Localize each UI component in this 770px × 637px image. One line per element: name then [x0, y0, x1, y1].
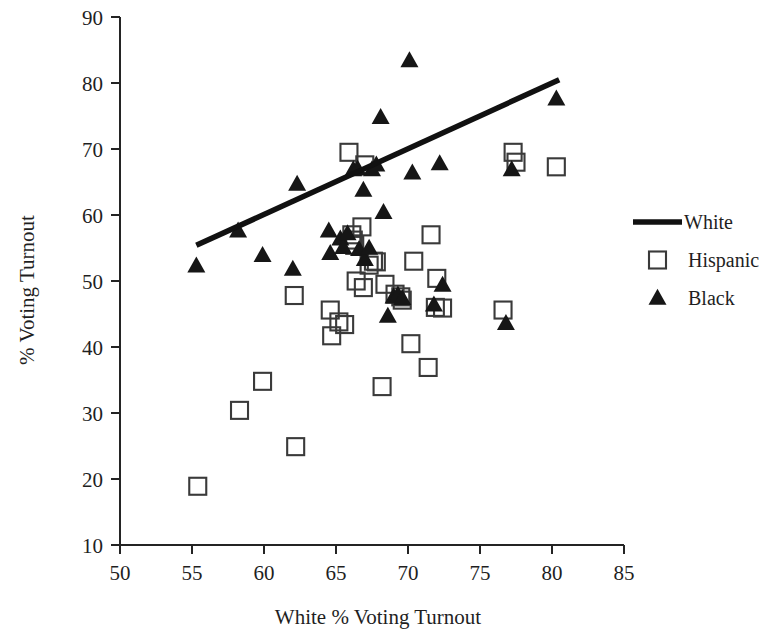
data-point-black — [400, 51, 418, 67]
y-tick-label: 30 — [82, 402, 103, 426]
data-point-black — [403, 163, 421, 179]
data-point-hispanic — [355, 279, 372, 296]
x-tick-label: 60 — [254, 561, 275, 585]
data-point-hispanic — [348, 273, 365, 290]
data-point-hispanic — [423, 226, 440, 243]
scatter-plot-figure: 1020304050607080905055606570758085 White… — [0, 0, 770, 637]
trend-line-white — [196, 80, 559, 246]
data-point-black — [503, 160, 521, 176]
chart-canvas: 1020304050607080905055606570758085 White… — [0, 0, 770, 637]
data-series — [187, 51, 565, 494]
legend-marker-hispanic — [649, 252, 666, 269]
data-point-black — [372, 108, 390, 124]
data-point-black — [354, 181, 372, 197]
x-tick-label: 65 — [326, 561, 347, 585]
data-point-hispanic — [376, 276, 393, 293]
x-tick-label: 50 — [110, 561, 131, 585]
x-tick-label: 80 — [542, 561, 563, 585]
data-point-hispanic — [231, 402, 248, 419]
data-point-black — [187, 257, 205, 273]
data-point-black — [434, 276, 452, 292]
data-point-hispanic — [402, 335, 419, 352]
y-tick-label: 70 — [82, 138, 103, 162]
data-point-hispanic — [254, 373, 271, 390]
x-tick-label: 75 — [470, 561, 491, 585]
trend-line-segment — [196, 80, 559, 246]
data-point-hispanic — [286, 287, 303, 304]
data-point-hispanic — [495, 302, 512, 319]
data-point-black — [547, 90, 565, 106]
data-point-hispanic — [340, 144, 357, 161]
y-tick-label: 80 — [82, 72, 103, 96]
data-point-black — [288, 175, 306, 191]
chart-legend: WhiteHispanicBlack — [633, 211, 759, 309]
legend-marker-black — [649, 289, 667, 305]
y-tick-label: 50 — [82, 270, 103, 294]
data-point-black — [375, 203, 393, 219]
x-tick-label: 55 — [182, 561, 203, 585]
data-point-black — [431, 154, 449, 170]
data-point-hispanic — [374, 378, 391, 395]
y-tick-label: 40 — [82, 336, 103, 360]
data-point-hispanic — [189, 478, 206, 495]
x-axis-title: White % Voting Turnout — [275, 605, 482, 629]
y-tick-label: 10 — [82, 534, 103, 558]
x-tick-label: 85 — [614, 561, 635, 585]
legend-label-black: Black — [688, 287, 735, 309]
data-point-hispanic — [287, 438, 304, 455]
x-tick-label: 70 — [398, 561, 419, 585]
legend-label-hispanic: Hispanic — [688, 249, 759, 272]
y-tick-label: 60 — [82, 204, 103, 228]
y-axis-title: % Voting Turnout — [15, 215, 39, 365]
data-point-hispanic — [405, 253, 422, 270]
data-point-hispanic — [420, 359, 437, 376]
data-point-black — [320, 222, 338, 238]
legend-label-white: White — [684, 211, 733, 233]
data-point-hispanic — [548, 158, 565, 175]
axes — [111, 17, 624, 554]
y-tick-label: 20 — [82, 468, 103, 492]
data-point-black — [284, 260, 302, 276]
data-point-black — [254, 246, 272, 262]
y-tick-label: 90 — [82, 6, 103, 30]
